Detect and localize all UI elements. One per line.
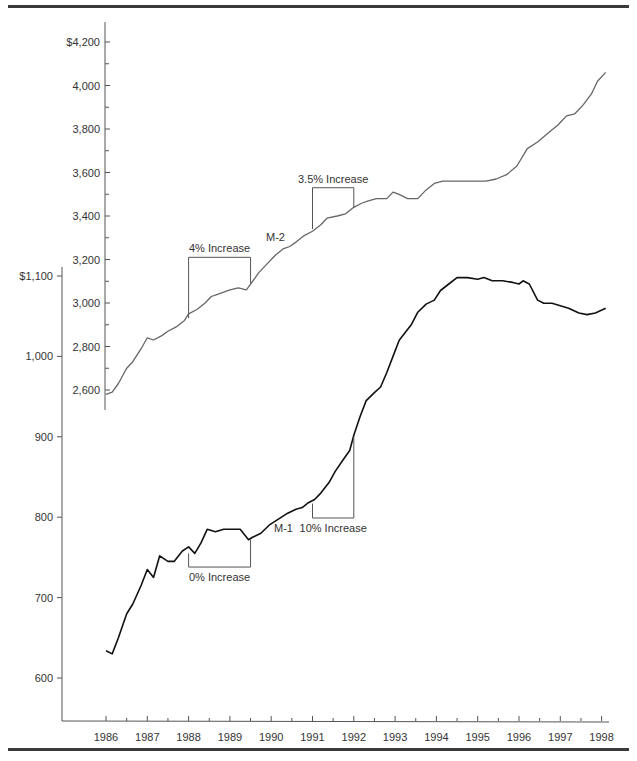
x-axis-tick-label: 1998 (589, 731, 613, 743)
m2-axis-tick-label: 2,800 (72, 341, 100, 353)
m1-axis-tick-label: 600 (35, 672, 53, 684)
series-label-m2: M-2 (266, 231, 285, 243)
x-axis-tick-label: 1993 (383, 731, 407, 743)
x-axis-tick-label: 1990 (259, 731, 283, 743)
m2-axis-tick-label: 3,200 (72, 254, 100, 266)
x-axis-tick-label: 1989 (218, 731, 242, 743)
m2-axis-tick-label: 4,000 (72, 80, 100, 92)
x-axis-line (62, 721, 609, 722)
m2-axis-tick-label: 3,000 (72, 297, 100, 309)
x-axis-tick-label: 1992 (342, 731, 366, 743)
m2-axis-tick-label: 3,800 (72, 123, 100, 135)
m1-axis-tick-label: 700 (35, 592, 53, 604)
x-axis-tick-label: 1987 (135, 731, 159, 743)
bracket-0pct (189, 540, 251, 567)
bracket-3-5pct (313, 188, 354, 229)
x-axis-tick-label: 1996 (507, 731, 531, 743)
m1-series-line (106, 278, 606, 654)
x-axis-tick-label: 1995 (465, 731, 489, 743)
m2-series-line (106, 72, 606, 394)
x-axis-tick-label: 1991 (300, 731, 324, 743)
series-label-m1: M-1 (274, 522, 293, 534)
x-axis-tick-label: 1994 (424, 731, 448, 743)
x-axis-tick-label: 1986 (94, 731, 118, 743)
bracket-10pct (313, 437, 354, 518)
annotation-4pct-increase: 4% Increase (189, 242, 250, 254)
m2-axis-tick-label: 3,400 (72, 210, 100, 222)
m1-axis-tick-label: 900 (35, 431, 53, 443)
annotation-0pct-increase: 0% Increase (189, 571, 250, 583)
m2-axis-tick-label: 2,600 (72, 384, 100, 396)
x-axis-tick-label: 1997 (548, 731, 572, 743)
annotation-3-5pct-increase: 3.5% Increase (298, 173, 368, 185)
m2-axis-tick-label: 3,600 (72, 167, 100, 179)
annotation-10pct-increase: 10% Increase (300, 522, 367, 534)
m1-axis-tick-label: 1,000 (25, 350, 53, 362)
m1-axis-tick-label: $1,100 (19, 270, 53, 282)
m1-axis-tick-label: 800 (35, 511, 53, 523)
x-axis-tick-label: 1988 (176, 731, 200, 743)
money-supply-chart: $1,1001,000900800700600$4,2004,0003,8003… (0, 0, 637, 761)
m2-axis-tick-label: $4,200 (66, 36, 100, 48)
